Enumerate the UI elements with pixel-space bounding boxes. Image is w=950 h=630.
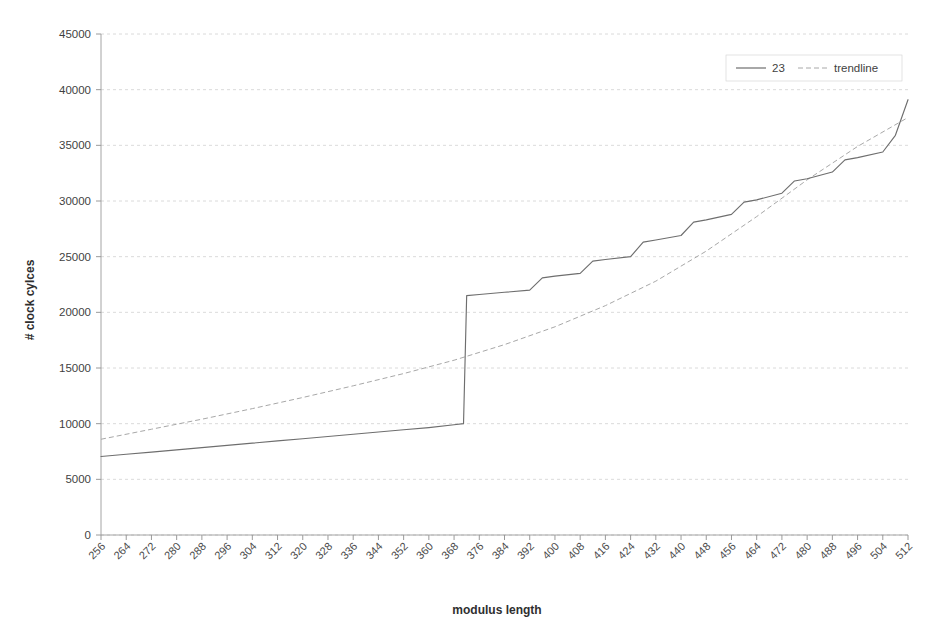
x-tick-label: 384 (489, 540, 510, 561)
gridlines-group (101, 34, 908, 535)
x-tick-label: 464 (742, 540, 763, 561)
series-23-path (101, 100, 908, 457)
x-tick-label: 280 (162, 540, 183, 561)
chart-container: 0500010000150002000025000300003500040000… (0, 0, 950, 630)
x-tick-label: 296 (212, 540, 233, 561)
x-tick-label: 448 (691, 540, 712, 561)
x-tick-label: 304 (237, 540, 258, 561)
x-tick-label: 512 (893, 540, 914, 561)
x-tick-label: 440 (666, 540, 687, 561)
trendline-series-path (101, 118, 908, 440)
x-tick-label: 472 (767, 540, 788, 561)
y-tick-label: 5000 (65, 473, 91, 485)
x-tick-label: 504 (868, 540, 889, 561)
y-axis-ticks-group (96, 34, 101, 535)
clock-cycles-line-chart: 0500010000150002000025000300003500040000… (0, 0, 950, 630)
x-tick-label: 424 (616, 540, 637, 561)
y-tick-label: 40000 (59, 84, 91, 96)
x-tick-label: 376 (464, 540, 485, 561)
x-tick-label: 408 (565, 540, 586, 561)
x-tick-label: 496 (843, 540, 864, 561)
y-tick-label: 0 (85, 529, 91, 541)
x-tick-label: 320 (288, 540, 309, 561)
legend-label-trendline: trendline (834, 62, 878, 74)
y-tick-label: 45000 (59, 28, 91, 40)
x-tick-label: 456 (716, 540, 737, 561)
y-tick-label: 30000 (59, 195, 91, 207)
x-tick-label: 400 (540, 540, 561, 561)
x-tick-label: 256 (86, 540, 107, 561)
x-tick-label: 344 (363, 540, 384, 561)
x-axis-title: modulus length (452, 603, 541, 617)
y-tick-label: 35000 (59, 139, 91, 151)
y-tick-label: 25000 (59, 251, 91, 263)
x-axis-ticks-group (101, 535, 908, 540)
y-tick-label: 10000 (59, 418, 91, 430)
x-tick-label: 352 (389, 540, 410, 561)
x-tick-label: 264 (111, 540, 132, 561)
x-tick-label: 416 (590, 540, 611, 561)
x-tick-label: 392 (515, 540, 536, 561)
y-axis-title: # clock cylces (23, 259, 37, 340)
x-tick-label: 480 (792, 540, 813, 561)
legend-label-23: 23 (772, 62, 785, 74)
y-tick-label: 15000 (59, 362, 91, 374)
legend: 23 trendline (726, 55, 902, 81)
x-tick-label: 432 (641, 540, 662, 561)
y-axis-tick-labels: 0500010000150002000025000300003500040000… (59, 28, 91, 541)
x-tick-label: 368 (439, 540, 460, 561)
x-tick-label: 336 (338, 540, 359, 561)
x-tick-label: 288 (187, 540, 208, 561)
x-tick-label: 328 (313, 540, 334, 561)
y-tick-label: 20000 (59, 306, 91, 318)
x-tick-label: 312 (262, 540, 283, 561)
x-tick-label: 272 (136, 540, 157, 561)
x-axis-tick-labels: 2562642722802882963043123203283363443523… (86, 540, 914, 561)
x-tick-label: 488 (817, 540, 838, 561)
x-tick-label: 360 (414, 540, 435, 561)
